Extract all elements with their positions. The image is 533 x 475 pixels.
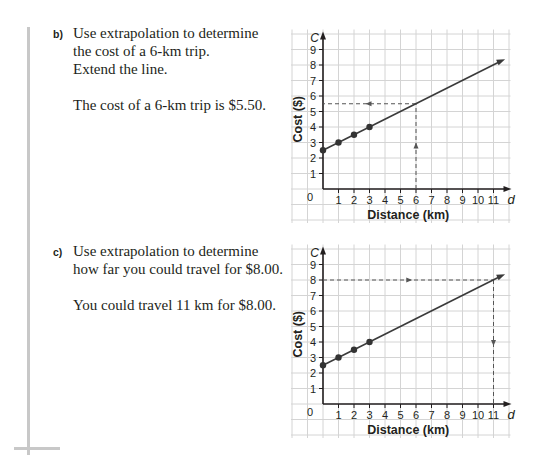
y-tick-label: 3 <box>310 137 316 149</box>
data-point <box>335 139 341 145</box>
y-tick-label: 1 <box>310 383 316 395</box>
x-tick-label: 3 <box>366 409 372 421</box>
cost-distance-chart-b: 12345678910111234567890dCDistance (km)Co… <box>288 25 518 225</box>
x-tick-label: 3 <box>366 194 372 206</box>
y-axis-variable: C <box>310 31 319 45</box>
question-text-line: the cost of a 6-km trip. <box>73 42 283 60</box>
trend-line-arrow-icon <box>496 274 505 280</box>
cost-distance-chart-c: 12345678910111234567890dCDistance (km)Co… <box>288 240 518 440</box>
data-point <box>320 362 326 368</box>
question-label: b) <box>53 25 63 43</box>
question-text-line: Use extrapolation to determine <box>73 24 283 42</box>
answer-text: You could travel 11 km for $8.00. <box>73 296 283 314</box>
x-tick-label: 4 <box>382 409 388 421</box>
y-tick-label: 8 <box>310 59 316 71</box>
x-tick-label: 11 <box>488 409 499 421</box>
y-tick-label: 2 <box>310 367 316 379</box>
x-axis-title: Distance (km) <box>367 423 449 437</box>
y-tick-label: 5 <box>310 321 316 333</box>
y-tick-label: 7 <box>310 75 316 87</box>
x-tick-label: 6 <box>413 409 419 421</box>
y-tick-label: 9 <box>310 259 316 271</box>
y-tick-label: 1 <box>310 168 316 180</box>
question-b: b) Use extrapolation to determine the co… <box>53 24 283 114</box>
y-tick-label: 4 <box>310 121 316 133</box>
x-axis-title: Distance (km) <box>367 208 449 222</box>
y-axis-title: Cost ($) <box>291 311 305 358</box>
x-tick-label: 1 <box>335 194 341 206</box>
x-tick-label: 5 <box>397 409 403 421</box>
trend-line <box>323 276 500 365</box>
guide-arrow-icon <box>414 142 419 148</box>
origin-label: 0 <box>307 406 313 418</box>
x-tick-label: 10 <box>472 194 484 206</box>
y-axis-arrow-icon <box>320 32 326 40</box>
y-tick-label: 7 <box>310 290 316 302</box>
question-label: c) <box>53 243 62 261</box>
question-text-line: how far you could travel for $8.00. <box>73 260 283 278</box>
x-axis-variable: d <box>508 407 516 422</box>
x-tick-label: 8 <box>444 409 450 421</box>
data-point <box>366 124 372 130</box>
answer-text: The cost of a 6-km trip is $5.50. <box>73 96 283 114</box>
y-tick-label: 5 <box>310 106 316 118</box>
y-tick-label: 6 <box>310 305 316 317</box>
guide-arrow-icon <box>406 278 412 283</box>
question-c: c) Use extrapolation to determine how fa… <box>53 242 283 314</box>
x-tick-label: 9 <box>459 194 465 206</box>
y-tick-label: 4 <box>310 336 316 348</box>
y-axis-variable: C <box>310 246 319 260</box>
guide-arrow-icon <box>366 101 372 106</box>
x-tick-label: 4 <box>382 194 388 206</box>
x-tick-label: 7 <box>428 409 434 421</box>
guide-arrow-icon <box>491 340 496 346</box>
margin-bar <box>27 27 30 455</box>
y-axis-arrow-icon <box>320 247 326 255</box>
x-tick-label: 7 <box>428 194 434 206</box>
origin-label: 0 <box>307 191 313 203</box>
trend-line <box>323 61 500 150</box>
y-tick-label: 8 <box>310 274 316 286</box>
x-tick-label: 5 <box>397 194 403 206</box>
margin-tick <box>14 447 60 450</box>
x-tick-label: 1 <box>335 409 341 421</box>
x-axis-variable: d <box>508 192 516 207</box>
data-point <box>351 132 357 138</box>
question-text-line: Extend the line. <box>73 60 283 78</box>
x-tick-label: 8 <box>444 194 450 206</box>
y-tick-label: 2 <box>310 152 316 164</box>
x-tick-label: 2 <box>351 194 357 206</box>
x-tick-label: 10 <box>472 409 484 421</box>
trend-line-arrow-icon <box>496 59 505 65</box>
y-tick-label: 9 <box>310 44 316 56</box>
y-tick-label: 6 <box>310 90 316 102</box>
x-tick-label: 9 <box>459 409 465 421</box>
data-point <box>335 354 341 360</box>
y-axis-title: Cost ($) <box>291 96 305 143</box>
x-tick-label: 6 <box>413 194 419 206</box>
question-text-line: Use extrapolation to determine <box>73 242 283 260</box>
x-tick-label: 2 <box>351 409 357 421</box>
y-tick-label: 3 <box>310 352 316 364</box>
data-point <box>366 339 372 345</box>
data-point <box>320 147 326 153</box>
x-tick-label: 11 <box>488 194 499 206</box>
data-point <box>351 347 357 353</box>
